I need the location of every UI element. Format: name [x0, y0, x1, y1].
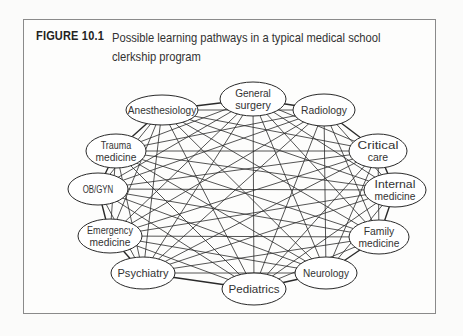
edge-radiology-neurology: [324, 110, 326, 273]
node-label: Family: [364, 226, 395, 237]
node-label: Anesthesiology: [128, 105, 196, 116]
edge-internal-medicine-obgyn: [98, 189, 395, 190]
node-label: Trauma: [101, 140, 132, 151]
node-label: Critical: [358, 140, 399, 151]
node-psychiatry: Psychiatry: [111, 257, 175, 289]
pathway-diagram: GeneralsurgeryRadiologyCriticalcareInter…: [0, 0, 463, 336]
node-label: Emergency: [87, 225, 133, 236]
node-label: medicine: [90, 237, 131, 248]
node-anesthesiology: Anesthesiology: [126, 95, 198, 125]
node-label: medicine: [375, 191, 416, 202]
node-trauma-medicine: Traumamedicine: [86, 134, 146, 168]
node-label: surgery: [235, 100, 271, 111]
node-label: medicine: [359, 238, 400, 249]
node-label: medicine: [96, 152, 137, 163]
edge-family-medicine-emergency-medicine: [110, 236, 379, 237]
node-label: Radiology: [301, 105, 347, 116]
edge-psychiatry-anesthesiology: [143, 110, 162, 273]
node-label: OB/GYN: [83, 184, 114, 195]
node-pediatrics: Pediatrics: [222, 273, 286, 305]
node-obgyn: OB/GYN: [68, 173, 128, 205]
node-label: Neurology: [303, 268, 349, 279]
node-label: care: [368, 152, 389, 163]
edge-radiology-family-medicine: [324, 110, 379, 237]
node-critical-care: Criticalcare: [349, 134, 407, 168]
node-label: Psychiatry: [118, 268, 169, 279]
node-label: Pediatrics: [229, 284, 280, 295]
node-radiology: Radiology: [293, 94, 355, 126]
node-emergency-medicine: Emergencymedicine: [78, 219, 142, 253]
node-label: General: [235, 88, 271, 99]
node-internal-medicine: Internalmedicine: [364, 173, 426, 207]
node-label: Internal: [375, 179, 416, 190]
node-family-medicine: Familymedicine: [349, 220, 409, 254]
node-general-surgery: Generalsurgery: [220, 82, 286, 116]
node-neurology: Neurology: [295, 257, 357, 289]
